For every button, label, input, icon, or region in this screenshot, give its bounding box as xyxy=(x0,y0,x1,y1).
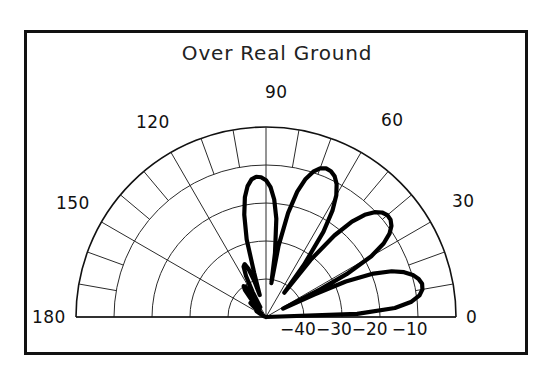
radial-tick-neg20: −20 xyxy=(352,319,388,339)
polar-grid xyxy=(76,127,456,317)
angle-label-90: 90 xyxy=(265,82,287,102)
radial-tick-neg10: −10 xyxy=(392,319,428,339)
angle-label-0: 0 xyxy=(466,307,477,327)
grid-spoke-170 xyxy=(79,284,116,291)
radial-axis-tick-labels: −40−30−20−10 xyxy=(280,319,428,339)
grid-spoke-150 xyxy=(101,222,266,317)
angle-label-30: 30 xyxy=(452,191,474,211)
radial-tick-neg40: −40 xyxy=(280,319,316,339)
grid-spoke-100 xyxy=(233,130,240,167)
angle-label-60: 60 xyxy=(381,110,403,130)
grid-spoke-80 xyxy=(292,130,299,167)
grid-spoke-50 xyxy=(364,171,388,200)
grid-spoke-110 xyxy=(201,138,214,174)
angle-label-150: 150 xyxy=(56,193,90,213)
grid-spoke-140 xyxy=(120,195,149,219)
grid-spoke-160 xyxy=(87,252,123,265)
chart-root: Over Real Ground 0 30 60 90 120 150 180 … xyxy=(0,0,554,375)
grid-spoke-130 xyxy=(144,171,168,200)
grid-spoke-20 xyxy=(409,252,445,265)
angle-label-180: 180 xyxy=(32,307,66,327)
radial-tick-neg30: −30 xyxy=(316,319,352,339)
angle-label-120: 120 xyxy=(136,112,170,132)
